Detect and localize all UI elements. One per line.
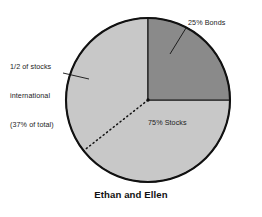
slice-label-bonds: 25% Bonds [188, 18, 225, 28]
chart-title: Ethan and Ellen [0, 189, 262, 200]
slice-label-stocks: 75% Stocks [148, 118, 187, 128]
annotation-line-3: (37% of total) [10, 120, 54, 130]
annotation-line-2: international [10, 91, 54, 101]
pie-center-dot [146, 98, 149, 101]
pie-slice-bonds[interactable] [148, 18, 230, 100]
annotation-line-1: 1/2 of stocks [10, 62, 54, 72]
pie-chart-figure: 1/2 of stocks international (37% of tota… [0, 0, 262, 217]
annotation-international-split: 1/2 of stocks international (37% of tota… [10, 43, 54, 149]
